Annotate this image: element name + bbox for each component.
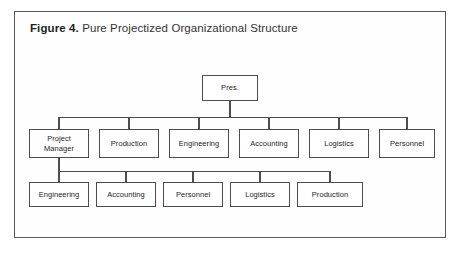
figure-title: Pure Projectized Organizational Structur…	[82, 22, 298, 34]
figure-page: Figure 4. Pure Projectized Organizationa…	[0, 0, 460, 253]
figure-number: Figure 4.	[30, 22, 79, 34]
figure-frame	[14, 11, 446, 238]
figure-caption: Figure 4. Pure Projectized Organizationa…	[30, 22, 298, 34]
